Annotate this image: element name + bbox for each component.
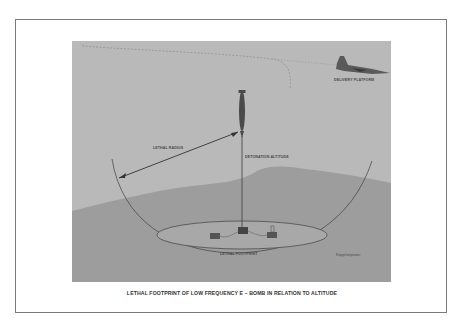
- vehicle-icon: [238, 227, 248, 234]
- delivery-platform-label: DELIVERY PLATFORM: [334, 78, 374, 82]
- bomb-icon: [239, 91, 245, 131]
- figure-caption: LETHAL FOOTPRINT OF LOW FREQUENCY E – BO…: [0, 290, 464, 296]
- aircraft-icon: [336, 56, 390, 74]
- bomb-nose-icon: [240, 131, 244, 138]
- bomb-tail-icon: [239, 90, 246, 93]
- vehicle-icon: [210, 233, 220, 239]
- lethal-footprint-label: LETHAL FOOTPRINT: [220, 252, 257, 256]
- diagram-scene: DELIVERY PLATFORM LETHAL RADIUS DETONATI…: [72, 41, 391, 282]
- trajectory-line: [82, 46, 290, 89]
- lethal-radius-arrow: [119, 132, 238, 178]
- lethal-radius-label: LETHAL RADIUS: [153, 146, 183, 150]
- credit-label: Kopp/airpower: [336, 253, 360, 257]
- detonation-altitude-label: DETONATION ALTITUDE: [245, 155, 289, 159]
- vehicle-icon: [267, 232, 277, 238]
